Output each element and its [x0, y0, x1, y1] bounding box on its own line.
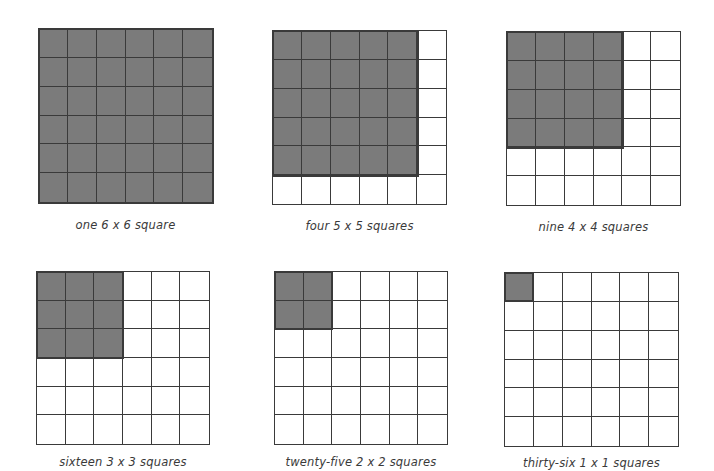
shaded-cell: [97, 144, 126, 173]
shaded-cell: [331, 146, 360, 175]
shaded-cell: [183, 29, 212, 58]
grid-cell: [304, 358, 333, 387]
grid-cell: [622, 119, 651, 148]
grid-cell: [275, 358, 304, 387]
grid-cell: [534, 273, 563, 302]
shaded-cell: [126, 29, 155, 58]
grid-panel-2x2: [274, 271, 448, 445]
grid-cell: [622, 147, 651, 176]
grid-cell: [66, 415, 95, 444]
grid-cell: [649, 417, 678, 446]
shaded-cell: [39, 29, 68, 58]
shaded-cell: [183, 87, 212, 116]
shaded-cell: [331, 60, 360, 89]
grid-cell: [622, 61, 651, 90]
shaded-cell: [154, 87, 183, 116]
grid-cell: [361, 301, 390, 330]
grid-cell: [418, 329, 447, 358]
grid-cell: [594, 147, 623, 176]
shaded-cell: [68, 144, 97, 173]
grid-cell: [417, 89, 446, 118]
grid-cell: [592, 302, 621, 331]
shaded-cell: [94, 301, 123, 330]
grid-cell: [594, 176, 623, 205]
grid-cell: [332, 415, 361, 444]
shaded-cell: [302, 118, 331, 147]
shaded-cell: [39, 87, 68, 116]
shaded-cell: [275, 301, 304, 330]
grid-cell: [390, 415, 419, 444]
grid-cell: [152, 415, 181, 444]
grid-cell: [332, 329, 361, 358]
shaded-cell: [39, 173, 68, 202]
grid-cell: [417, 175, 446, 204]
shaded-cell: [388, 31, 417, 60]
grid-cell: [152, 329, 181, 358]
shaded-cell: [331, 31, 360, 60]
shaded-cell: [388, 118, 417, 147]
grid-cell: [536, 176, 565, 205]
shaded-cell: [39, 144, 68, 173]
grid-cell: [180, 329, 209, 358]
grid-cell: [534, 360, 563, 389]
grid-cell: [622, 176, 651, 205]
grid-cell: [275, 387, 304, 416]
grid-cell: [360, 175, 389, 204]
grid-cell: [361, 387, 390, 416]
grid-cell: [331, 175, 360, 204]
shaded-cell: [97, 87, 126, 116]
grid-cell: [592, 360, 621, 389]
shaded-cell: [154, 144, 183, 173]
shaded-cell: [97, 29, 126, 58]
grid-cell: [304, 415, 333, 444]
shaded-cell: [594, 90, 623, 119]
grid-cell: [332, 358, 361, 387]
shaded-cell: [183, 58, 212, 87]
shaded-cell: [388, 60, 417, 89]
grid-cell: [304, 329, 333, 358]
shaded-cell: [126, 144, 155, 173]
grid-cell: [563, 302, 592, 331]
grid-cell: [534, 417, 563, 446]
shaded-cell: [304, 301, 333, 330]
shaded-cell: [273, 60, 302, 89]
grid-cell: [534, 302, 563, 331]
grid-cell: [390, 301, 419, 330]
grid-cell: [649, 360, 678, 389]
grid-cell: [620, 302, 649, 331]
shaded-cell: [39, 58, 68, 87]
grid-cell: [592, 331, 621, 360]
grid-cell: [563, 273, 592, 302]
grid-panel-4x4: [506, 31, 681, 206]
grid-cell: [563, 388, 592, 417]
shaded-cell: [273, 146, 302, 175]
grid-cell: [390, 272, 419, 301]
shaded-cell: [126, 116, 155, 145]
grid-cell: [390, 358, 419, 387]
shaded-cell: [68, 58, 97, 87]
grid-cell: [94, 415, 123, 444]
grid-panel-6x6: [38, 28, 213, 203]
shaded-cell: [273, 118, 302, 147]
shaded-cell: [183, 173, 212, 202]
grid-cell: [565, 147, 594, 176]
shaded-cell: [302, 31, 331, 60]
grid-cell: [649, 302, 678, 331]
grid-cell: [620, 273, 649, 302]
grid-cell: [563, 331, 592, 360]
shaded-cell: [154, 173, 183, 202]
grid-cell: [180, 272, 209, 301]
shaded-cell: [331, 118, 360, 147]
grid-cell: [505, 331, 534, 360]
shaded-cell: [273, 89, 302, 118]
grid-cell: [180, 387, 209, 416]
shaded-cell: [302, 146, 331, 175]
grid-cell: [388, 175, 417, 204]
panel-caption: one 6 x 6 square: [75, 218, 175, 232]
grid-cell: [505, 388, 534, 417]
grid-cell: [563, 360, 592, 389]
shaded-cell: [505, 273, 534, 302]
grid-cell: [37, 358, 66, 387]
grid-cell: [180, 358, 209, 387]
shaded-cell: [507, 119, 536, 148]
